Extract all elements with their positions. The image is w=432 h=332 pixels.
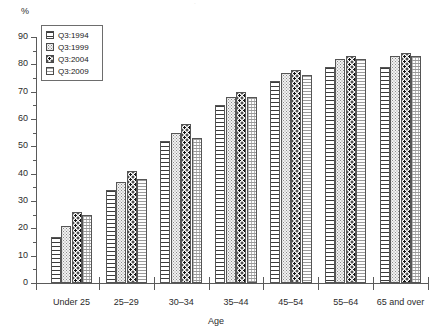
bar (236, 92, 246, 283)
legend-item[interactable]: Q3:2009 (46, 65, 98, 77)
bar (247, 97, 257, 283)
bar (106, 190, 116, 283)
legend-swatch-icon (46, 31, 54, 39)
legend-swatch-icon (46, 43, 54, 51)
bar-chart: · % 0102030405060708090 Under 2525–2930–… (0, 0, 432, 332)
y-axis-tick-label: 90 (6, 32, 28, 41)
chart-legend: Q3:1994 Q3:1999 Q3:2004 Q3:2009 (41, 25, 103, 81)
y-axis-tick-label: 10 (6, 251, 28, 260)
bar (281, 73, 291, 283)
y-axis-tick-label: 0 (6, 278, 28, 287)
y-axis-tick-label: 60 (6, 114, 28, 123)
bar (127, 171, 137, 283)
legend-item-label: Q3:1999 (58, 43, 89, 52)
bar (380, 67, 390, 283)
bar (335, 59, 345, 283)
legend-item[interactable]: Q3:1994 (46, 29, 98, 41)
x-axis-group-separator-tick (209, 277, 210, 290)
bar (160, 141, 170, 283)
y-axis-tick-label: 70 (6, 87, 28, 96)
x-axis-tick-label: 65 and over (361, 297, 432, 307)
x-axis-group-separator-tick (373, 277, 374, 290)
y-axis-tick-label: 20 (6, 223, 28, 232)
bar (226, 97, 236, 283)
x-axis-boundary-tick (36, 277, 37, 290)
y-axis-unit-label: % (21, 6, 29, 16)
legend-swatch-icon (46, 67, 54, 75)
legend-item-label: Q3:1994 (58, 31, 89, 40)
x-axis-group-separator-tick (99, 277, 100, 290)
x-axis-group-separator-tick (154, 277, 155, 290)
bar (51, 237, 61, 283)
bar (82, 215, 92, 283)
bar (325, 67, 335, 283)
bar (356, 59, 366, 283)
bar (302, 75, 312, 283)
y-axis-tick-label: 80 (6, 59, 28, 68)
bar (390, 56, 400, 283)
bar (401, 53, 411, 283)
y-axis-tick-label: 50 (6, 141, 28, 150)
legend-swatch-icon (46, 55, 54, 63)
bar (215, 105, 225, 283)
x-axis-line (36, 283, 428, 284)
x-axis-group-separator-tick (263, 277, 264, 290)
x-axis-group-separator-tick (318, 277, 319, 290)
bar (270, 81, 280, 283)
bar (346, 56, 356, 283)
bar (291, 70, 301, 283)
bar (181, 124, 191, 283)
bar (192, 138, 202, 283)
y-axis-tick-label: 30 (6, 196, 28, 205)
x-axis-title: Age (0, 316, 432, 326)
legend-item[interactable]: Q3:1999 (46, 41, 98, 53)
bar (72, 212, 82, 283)
bar (171, 133, 181, 283)
bar (61, 226, 71, 283)
legend-item-label: Q3:2009 (58, 67, 89, 76)
bar (116, 182, 126, 283)
y-axis-line (36, 37, 37, 284)
y-axis-tick-label: 40 (6, 169, 28, 178)
top-artifact-mark: · (186, 0, 204, 8)
bar (411, 56, 421, 283)
bar (137, 179, 147, 283)
legend-item-label: Q3:2004 (58, 55, 89, 64)
x-axis-boundary-tick (428, 277, 429, 290)
legend-item[interactable]: Q3:2004 (46, 53, 98, 65)
